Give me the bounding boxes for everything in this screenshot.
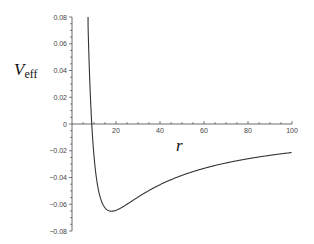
y-tick-label: −0.06 — [49, 201, 67, 208]
y-axis-label-main: V — [14, 60, 24, 79]
y-tick-label: −0.02 — [49, 147, 67, 154]
y-tick-label: 0 — [63, 121, 67, 128]
y-axis-label-subscript: eff — [24, 67, 37, 81]
x-tick-label: 20 — [112, 127, 120, 134]
potential-chart: 0.080.060.040.020−0.02−0.04−0.06−0.08204… — [0, 0, 314, 244]
y-tick-label: 0.04 — [53, 67, 67, 74]
y-tick-label: −0.04 — [49, 174, 67, 181]
veff-curve — [88, 17, 292, 211]
y-tick-label: 0.08 — [53, 14, 67, 21]
y-tick-label: −0.08 — [49, 228, 67, 235]
y-axis-label: Veff — [14, 60, 38, 80]
x-tick-label: 80 — [244, 127, 252, 134]
y-tick-label: 0.02 — [53, 94, 67, 101]
x-tick-label: 60 — [200, 127, 208, 134]
x-axis-label: r — [176, 136, 183, 156]
x-tick-label: 100 — [286, 127, 298, 134]
y-tick-label: 0.06 — [53, 40, 67, 47]
x-tick-label: 40 — [156, 127, 164, 134]
